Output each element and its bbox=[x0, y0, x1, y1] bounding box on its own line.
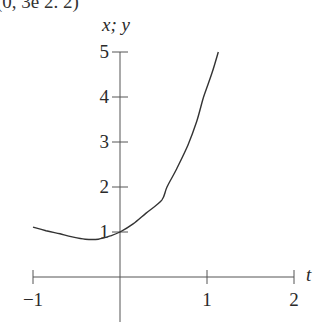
chart: (0, 3e 2. 2) −11212345 t x; y bbox=[0, 0, 325, 325]
data-curve bbox=[33, 52, 218, 240]
y-tick-label: 4 bbox=[100, 86, 110, 107]
x-tick-label: −1 bbox=[23, 289, 43, 310]
y-tick-label: 3 bbox=[100, 131, 110, 152]
tick-labels: −11212345 bbox=[23, 41, 299, 310]
y-axis-label: x; y bbox=[101, 14, 131, 35]
ticks bbox=[33, 52, 294, 284]
y-tick-label: 2 bbox=[100, 176, 110, 197]
x-tick-label: 2 bbox=[289, 289, 299, 310]
clipped-header-text: (0, 3e 2. 2) bbox=[0, 0, 79, 13]
y-tick-label: 5 bbox=[100, 41, 110, 62]
axes bbox=[33, 52, 294, 322]
x-tick-label: 1 bbox=[202, 289, 212, 310]
x-axis-label: t bbox=[306, 264, 312, 285]
